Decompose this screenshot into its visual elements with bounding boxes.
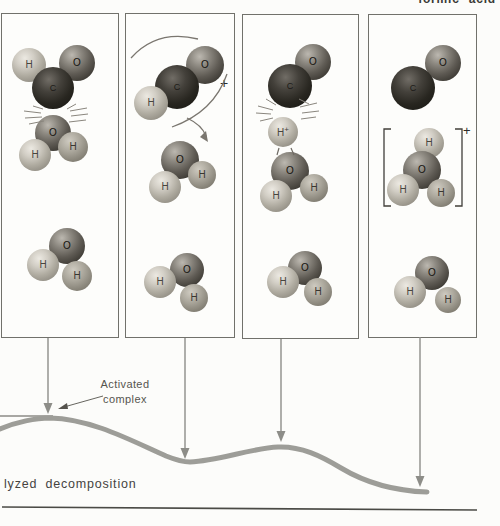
hydrogen-atom: H [58, 132, 88, 162]
hydrogen-atom: H [300, 174, 328, 202]
hydrogen-atom: H [134, 86, 168, 120]
hydrogen-atom: H [304, 278, 332, 306]
flow-arrows [44, 337, 425, 487]
hydrogen-atom: H [27, 249, 59, 281]
hydrogen-atom: H [267, 266, 299, 298]
figure-page: formic acid O H C O H H O H H O C H + O … [0, 0, 500, 526]
hydrogen-atom: H [19, 139, 51, 171]
proton-h-plus: H+ [268, 117, 298, 147]
hydrogen-atom: H [144, 266, 176, 298]
complex-charge: + [463, 124, 471, 137]
hydrogen-atom: H [435, 287, 461, 313]
hydrogen-atom: H [394, 276, 426, 308]
hydrogen-atom: H [260, 180, 292, 212]
figure-caption: lyzed decomposition [4, 477, 136, 491]
hydrogen-atom: H [188, 161, 216, 189]
hydrogen-atom: H [180, 284, 208, 312]
hydrogen-atom: H [149, 171, 181, 203]
hydrogen-atom: H [62, 261, 92, 291]
hydrogen-atom: H [427, 179, 455, 207]
carbon-atom: C [268, 64, 312, 108]
bottom-rule [2, 507, 477, 510]
plus-charge: + [220, 76, 228, 90]
superscript-plus: + [284, 125, 289, 134]
formic-acid-label: formic acid [418, 0, 496, 5]
hydrogen-atom: H [387, 174, 419, 206]
carbon-atom: C [32, 67, 74, 109]
carbon-atom: C [391, 66, 435, 110]
clipped-top-label: formic acid [386, 0, 496, 5]
activated-complex-label: Activated complex [94, 377, 156, 407]
